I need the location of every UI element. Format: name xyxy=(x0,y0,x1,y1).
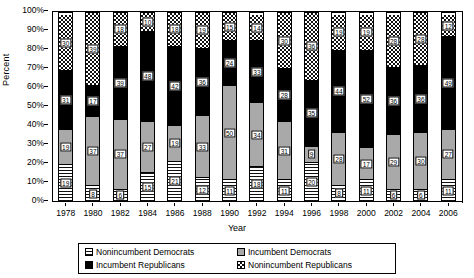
bar-1986[interactable]: 21194218 xyxy=(167,12,182,202)
bar-value-label: 36 xyxy=(197,78,208,87)
bar-value-label: 17 xyxy=(361,159,372,168)
legend-label: Nonincumbent Republicans xyxy=(248,260,352,270)
bar-segment: 37 xyxy=(114,120,127,190)
x-tick-label: 1994 xyxy=(275,208,294,218)
bar-value-label: 11 xyxy=(224,186,235,195)
x-tick-mark xyxy=(366,203,367,206)
bar-value-label: 19 xyxy=(361,28,372,37)
bar-value-label: 48 xyxy=(142,72,153,81)
bar-segment: 15 xyxy=(223,13,236,41)
x-tick-mark xyxy=(420,203,421,206)
bar-1994[interactable]: 11312830 xyxy=(277,12,292,202)
bar-value-label: 15 xyxy=(224,22,235,31)
bar-value-label: 34 xyxy=(251,130,262,139)
bar-segment: 35 xyxy=(305,81,318,147)
y-tick-label: 70% xyxy=(27,63,44,71)
bar-1996[interactable]: 2093536 xyxy=(304,12,319,202)
bar-segment: 18 xyxy=(168,13,181,47)
bar-1980[interactable]: 8371739 xyxy=(85,12,100,202)
chart-root: Percent 0%10%20%30%40%50%60%70%80%90%100… xyxy=(0,0,474,278)
plot-area: Percent 0%10%20%30%40%50%60%70%80%90%100… xyxy=(0,0,474,238)
bar-segment: 30 xyxy=(278,13,291,69)
legend-label: Incumbent Democrats xyxy=(248,247,331,257)
bar-segment: 11 xyxy=(223,180,236,201)
bar-segment: 19 xyxy=(332,15,345,51)
x-tick-mark xyxy=(174,203,175,206)
y-tick-label: 10% xyxy=(27,177,44,185)
legend-swatch-icon xyxy=(85,248,93,256)
bar-segment: 29 xyxy=(387,135,400,190)
bar-2006[interactable]: 11274912 xyxy=(441,12,456,202)
bar-value-label: 28 xyxy=(279,91,290,100)
x-tick-label: 2002 xyxy=(384,208,403,218)
bar-2000[interactable]: 11175219 xyxy=(359,12,374,202)
bar-value-label: 44 xyxy=(333,87,344,96)
legend-label: Incumbent Republicans xyxy=(96,260,185,270)
bar-1978[interactable]: 19193130 xyxy=(58,12,73,202)
x-tick-label: 1992 xyxy=(247,208,266,218)
bar-1992[interactable]: 18343314 xyxy=(249,12,264,202)
y-tick-label: 60% xyxy=(27,82,44,90)
bar-value-label: 28 xyxy=(333,155,344,164)
bar-value-label: 52 xyxy=(361,95,372,104)
bar-value-label: 6 xyxy=(390,191,398,200)
bar-segment: 44 xyxy=(332,51,345,134)
y-tick-label: 50% xyxy=(27,101,44,109)
bar-segment: 42 xyxy=(168,47,181,126)
bar-segment: 19 xyxy=(196,13,209,49)
bar-segment: 31 xyxy=(59,71,72,129)
bar-segment: 27 xyxy=(442,130,455,181)
bar-value-label: 18 xyxy=(115,25,126,34)
y-tick-mark xyxy=(44,181,48,182)
x-tick-label: 2006 xyxy=(439,208,458,218)
bar-segment: 33 xyxy=(250,41,263,103)
x-tick-mark xyxy=(393,203,394,206)
bar-value-label: 6 xyxy=(117,191,125,200)
y-tick-label: 40% xyxy=(27,120,44,128)
bar-2002[interactable]: 6293628 xyxy=(386,12,401,202)
x-tick-label: 1998 xyxy=(329,208,348,218)
x-tick: 1998 xyxy=(331,203,346,225)
y-tick-label: 30% xyxy=(27,139,44,147)
x-tick-mark xyxy=(256,203,257,206)
y-tick-label: 80% xyxy=(27,44,44,52)
bar-value-label: 11 xyxy=(279,186,290,195)
y-tick-mark xyxy=(44,48,48,49)
bar-value-label: 12 xyxy=(443,21,454,30)
bar-1990[interactable]: 11502415 xyxy=(222,12,237,202)
bar-value-label: 15 xyxy=(142,182,153,191)
x-tick: 1988 xyxy=(195,203,210,225)
bar-value-label: 36 xyxy=(415,95,426,104)
x-tick-label: 1984 xyxy=(138,208,157,218)
x-tick-mark xyxy=(120,203,121,206)
bar-2004[interactable]: 6303628 xyxy=(413,12,428,202)
y-tick-mark xyxy=(44,124,48,125)
x-tick: 2006 xyxy=(441,203,456,225)
bar-value-label: 31 xyxy=(279,146,290,155)
bar-segment: 30 xyxy=(59,15,72,71)
bar-segment: 19 xyxy=(360,15,373,51)
bar-value-label: 30 xyxy=(279,36,290,45)
bar-value-label: 9 xyxy=(308,150,316,159)
bar-segment: 17 xyxy=(86,86,99,118)
x-tick-label: 1996 xyxy=(302,208,321,218)
bar-segment: 52 xyxy=(360,51,373,149)
x-tick: 1990 xyxy=(222,203,237,225)
y-axis-ticks: 0%10%20%30%40%50%60%70%80%90%100% xyxy=(10,10,48,202)
legend-item: Incumbent Democrats xyxy=(237,247,389,257)
bar-1988[interactable]: 12333619 xyxy=(195,12,210,202)
bar-value-label: 33 xyxy=(197,142,208,151)
chart-legend: Nonincumbent DemocratsIncumbent Democrat… xyxy=(78,243,396,274)
x-axis-title: Year xyxy=(0,223,474,233)
bar-segment: 37 xyxy=(86,117,99,186)
bar-1984[interactable]: 15274810 xyxy=(140,12,155,202)
bar-segment: 18 xyxy=(250,167,263,201)
bar-1982[interactable]: 6373918 xyxy=(113,12,128,202)
bar-value-label: 12 xyxy=(197,185,208,194)
bar-value-label: 14 xyxy=(251,23,262,32)
bar-segment: 6 xyxy=(414,190,427,201)
bar-1998[interactable]: 8284419 xyxy=(331,12,346,202)
bar-segment: 21 xyxy=(168,162,181,201)
bar-value-label: 24 xyxy=(224,59,235,68)
x-tick: 1978 xyxy=(58,203,73,225)
